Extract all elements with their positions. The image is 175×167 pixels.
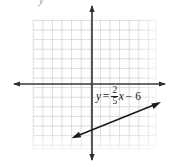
graph-figure: y y = 2 5 x − 6 xyxy=(0,0,175,167)
x-axis-arrow-right xyxy=(159,81,166,86)
y-axis-arrow-down xyxy=(89,154,94,161)
grid-fade-bottom xyxy=(31,132,159,154)
y-axis-arrow-up xyxy=(89,5,94,12)
grid-fade-right xyxy=(138,18,162,152)
x-axis-arrow-left xyxy=(13,81,20,86)
coordinate-plane-svg xyxy=(0,0,175,167)
